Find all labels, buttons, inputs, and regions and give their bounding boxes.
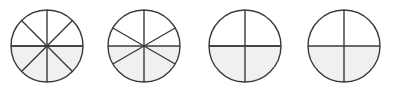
circle-eighths-svg [5, 4, 89, 88]
fraction-circle-4 [302, 4, 386, 88]
circle-halves-svg [302, 4, 386, 88]
circle-sixths-svg [102, 4, 186, 88]
fraction-circle-2 [102, 4, 186, 88]
fraction-circle-3 [203, 4, 287, 88]
fraction-circles-figure [0, 0, 393, 93]
circle-fourths-svg [203, 4, 287, 88]
fraction-circle-1 [5, 4, 89, 88]
